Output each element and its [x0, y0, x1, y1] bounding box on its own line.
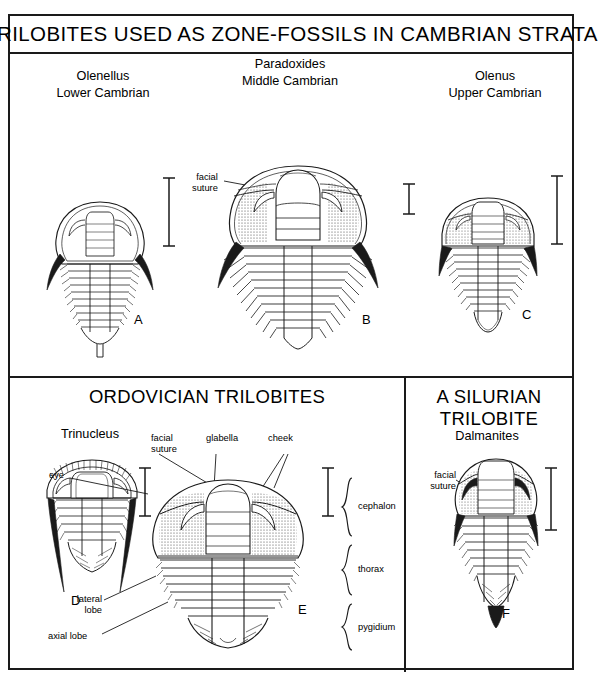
genus-dalmanites: Dalmanites	[428, 428, 546, 445]
specimen-label-d: Trinucleus	[36, 426, 144, 443]
panel-letter-e: E	[298, 602, 307, 617]
silurian-panel: A SILURIAN TRILOBITE Dalmanites facial s…	[406, 378, 572, 672]
label-cheek: cheek	[268, 433, 293, 444]
silurian-title-line2: TRILOBITE	[406, 408, 572, 430]
panel-letter-a: A	[134, 312, 143, 327]
lateral-lobe-line2: lobe	[48, 605, 102, 616]
figure-ordovician-anatomy	[140, 478, 316, 658]
label-eye: eye	[49, 470, 64, 481]
genus-olenellus: Olenellus	[28, 68, 178, 85]
scale-bar-a	[162, 176, 176, 248]
scale-bar-b	[402, 182, 416, 216]
age-olenellus: Lower Cambrian	[28, 85, 178, 102]
page-title: TRILOBITES USED AS ZONE-FOSSILS IN CAMBR…	[0, 22, 598, 46]
panel-letter-b: B	[362, 312, 371, 327]
specimen-label-f: Dalmanites	[428, 428, 546, 445]
figure-paradoxides	[208, 162, 388, 352]
figure-dalmanites	[440, 456, 552, 636]
scale-bar-e	[321, 466, 335, 518]
section-title-silurian: A SILURIAN TRILOBITE	[406, 378, 572, 430]
silurian-title-line1: A SILURIAN	[406, 386, 572, 408]
scale-bar-c	[550, 174, 564, 246]
facial-suture-e-line1: facial	[151, 433, 177, 444]
cambrian-row: Olenellus Lower Cambrian	[10, 54, 572, 378]
label-facial-suture-e: facial suture	[151, 433, 177, 455]
panel-letter-c: C	[522, 307, 531, 322]
figure-olenellus	[40, 194, 160, 359]
brace-pygidium	[340, 602, 356, 654]
label-axial-lobe: axial lobe	[48, 631, 87, 642]
specimen-label-c: Olenus Upper Cambrian	[420, 68, 570, 101]
age-olenus: Upper Cambrian	[420, 85, 570, 102]
specimen-label-b: Paradoxides Middle Cambrian	[210, 56, 370, 89]
label-thorax: thorax	[358, 564, 384, 575]
panel-letter-f: F	[502, 606, 510, 621]
label-glabella: glabella	[206, 433, 238, 444]
lower-row: ORDOVICIAN TRILOBITES Trinucleus	[10, 378, 572, 672]
section-title-ordovician: ORDOVICIAN TRILOBITES	[10, 378, 404, 408]
illustration-plate: TRILOBITES USED AS ZONE-FOSSILS IN CAMBR…	[8, 14, 574, 670]
genus-paradoxides: Paradoxides	[210, 56, 370, 73]
label-pygidium: pygidium	[358, 622, 395, 633]
genus-olenus: Olenus	[420, 68, 570, 85]
specimen-label-a: Olenellus Lower Cambrian	[28, 68, 178, 101]
plate-title-bar: TRILOBITES USED AS ZONE-FOSSILS IN CAMBR…	[10, 16, 572, 54]
label-lateral-lobe: lateral lobe	[48, 594, 102, 616]
age-paradoxides: Middle Cambrian	[210, 73, 370, 90]
brace-thorax	[340, 543, 356, 599]
brace-cephalon	[340, 476, 356, 540]
scale-bar-f	[544, 466, 558, 532]
genus-trinucleus: Trinucleus	[36, 426, 144, 443]
facial-suture-e-line2: suture	[151, 444, 177, 455]
label-cephalon: cephalon	[358, 501, 396, 512]
ordovician-panel: ORDOVICIAN TRILOBITES Trinucleus	[10, 378, 406, 672]
lateral-lobe-line1: lateral	[48, 594, 102, 605]
